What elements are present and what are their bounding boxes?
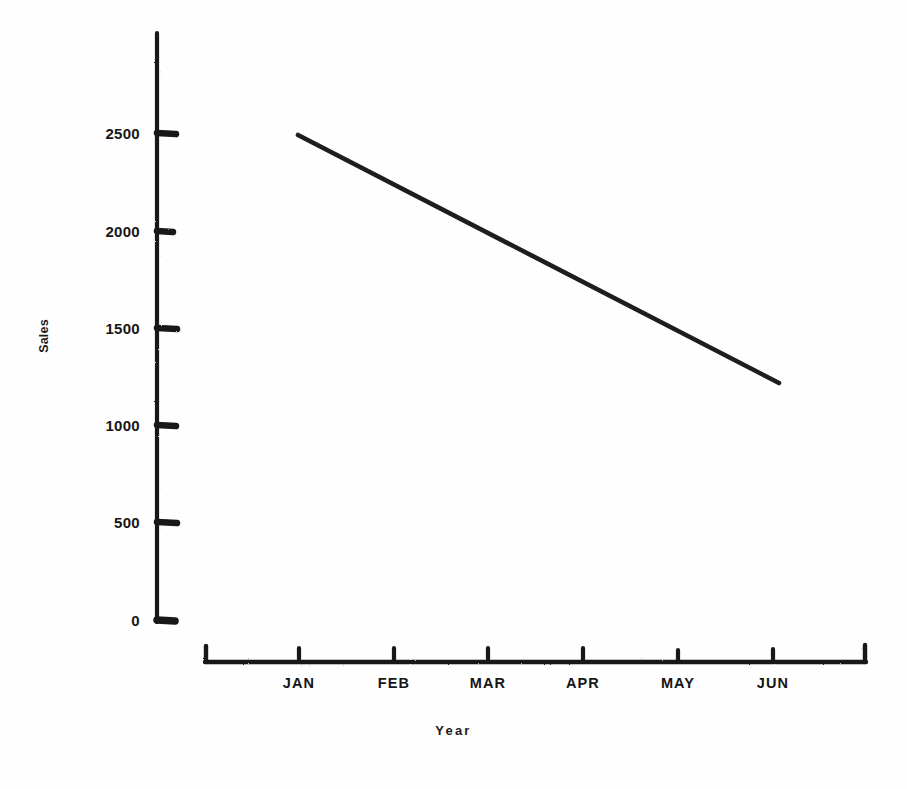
y-tick-label-2500: 2500	[60, 126, 140, 141]
x-tick-label-jun: JUN	[728, 676, 818, 691]
y-tick-label-0: 0	[60, 613, 140, 628]
x-axis-line	[205, 645, 866, 662]
y-tick-label-2000: 2000	[60, 224, 140, 239]
y-axis-ticks	[157, 133, 177, 621]
x-tick-label-apr: APR	[538, 676, 628, 691]
y-tick-label-1000: 1000	[60, 418, 140, 433]
x-axis-title: Year	[0, 723, 907, 738]
x-tick-label-feb: FEB	[349, 676, 439, 691]
y-axis-title: Sales	[14, 296, 74, 376]
y-tick-label-500: 500	[60, 515, 140, 530]
x-tick-label-may: MAY	[633, 676, 723, 691]
y-axis-title-text: Sales	[37, 319, 51, 353]
line-chart-canvas	[0, 0, 907, 789]
x-tick-label-mar: MAR	[443, 676, 533, 691]
chart-figure: 2500 2000 1500 1000 500 0 JAN FEB MAR AP…	[0, 0, 907, 789]
data-series-sales	[298, 135, 779, 383]
x-tick-label-jan: JAN	[254, 676, 344, 691]
